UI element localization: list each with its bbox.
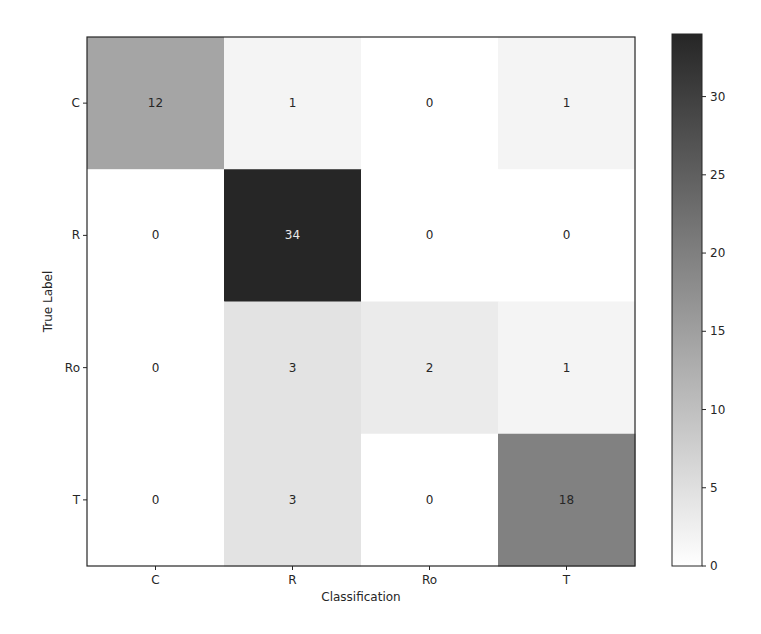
- y-tick-label: Ro: [65, 361, 80, 375]
- colorbar-tick-label: 5: [710, 481, 718, 495]
- cell-value-label: 0: [152, 228, 160, 242]
- x-tick-label: C: [151, 573, 159, 587]
- x-axis-label: Classification: [321, 590, 400, 604]
- x-tick-label: T: [562, 573, 571, 587]
- cell-value-label: 1: [563, 96, 571, 110]
- confusion-matrix-chart: 1210103400032103018 CRRoT CRRoT Classifi…: [0, 0, 761, 634]
- colorbar-tick-label: 30: [710, 90, 725, 104]
- colorbar-ticks: 051015202530: [702, 90, 725, 573]
- x-axis-ticks: CRRoT: [151, 566, 571, 587]
- y-tick-label: C: [72, 96, 80, 110]
- colorbar-tick-label: 20: [710, 246, 725, 260]
- y-axis-ticks: CRRoT: [65, 96, 87, 507]
- cell-value-label: 1: [563, 361, 571, 375]
- cell-value-label: 0: [152, 493, 160, 507]
- cell-value-label: 12: [148, 96, 163, 110]
- cell-value-label: 0: [426, 96, 434, 110]
- x-tick-label: R: [288, 573, 296, 587]
- y-axis-label: True Label: [41, 271, 55, 334]
- cell-value-label: 18: [559, 493, 574, 507]
- cell-value-label: 0: [563, 228, 571, 242]
- heatmap-cells: [87, 37, 636, 567]
- cell-value-label: 3: [289, 361, 297, 375]
- colorbar: [672, 34, 702, 566]
- cell-value-label: 2: [426, 361, 434, 375]
- colorbar-tick-label: 25: [710, 168, 725, 182]
- cell-value-label: 1: [289, 96, 297, 110]
- cell-value-label: 0: [426, 228, 434, 242]
- colorbar-tick-label: 10: [710, 403, 725, 417]
- y-tick-label: R: [72, 228, 80, 242]
- colorbar-tick-label: 15: [710, 324, 725, 338]
- cell-value-label: 34: [285, 228, 300, 242]
- colorbar-tick-label: 0: [710, 559, 718, 573]
- x-tick-label: Ro: [422, 573, 437, 587]
- cell-value-label: 0: [152, 361, 160, 375]
- cell-value-label: 3: [289, 493, 297, 507]
- cell-value-label: 0: [426, 493, 434, 507]
- y-tick-label: T: [72, 493, 81, 507]
